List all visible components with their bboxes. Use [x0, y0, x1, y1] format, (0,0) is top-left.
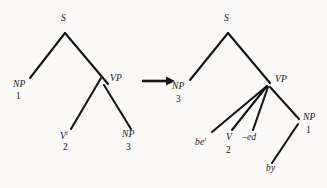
right-tree-node-s: S: [224, 14, 229, 24]
left-tree-node-np-subject: NP: [13, 80, 26, 90]
right-tree-node-preposition: by: [266, 164, 275, 174]
left-tree-node-vp: VP: [110, 74, 122, 84]
tree-diagram-canvas: [0, 0, 327, 188]
right-tree-branches: [190, 33, 299, 163]
right-tree-aux-be-superscript: t: [204, 136, 206, 142]
right-tree-node-np-subject: NP: [172, 82, 185, 92]
branch-s-to-np1: [30, 33, 65, 78]
right-tree-aux-be-letters: be: [195, 137, 204, 147]
right-tree-node-verb: V: [226, 133, 232, 143]
branch-s-to-vp: [65, 33, 108, 84]
passive-transformation-figure: S NP 1 VP Vt 2 NP 3 S NP 3 VP bet V 2 –e…: [0, 0, 327, 188]
left-tree-index-verb: 2: [63, 143, 68, 153]
branch-np1-to-by: [272, 124, 298, 163]
branch-s-to-np3: [190, 33, 228, 80]
right-tree-index-np-agent: 1: [306, 126, 311, 136]
right-tree-index-verb: 2: [226, 146, 231, 156]
right-tree-node-aux-be: bet: [195, 136, 206, 148]
branch-s-to-vp: [228, 33, 270, 83]
right-tree-node-suffix-ed: –ed: [242, 133, 256, 143]
left-tree-index-np-subject: 1: [16, 92, 21, 102]
right-tree-index-np-subject: 3: [176, 95, 181, 105]
left-tree-node-verb: Vt: [60, 130, 68, 142]
right-tree-node-np-agent: NP: [303, 113, 316, 123]
left-tree-node-s: S: [61, 14, 66, 24]
left-tree-index-np-object: 3: [126, 143, 131, 153]
branch-vp-to-np3: [104, 85, 131, 129]
left-tree-node-np-object: NP: [122, 130, 135, 140]
left-tree-verb-superscript: t: [66, 130, 68, 136]
right-tree-node-vp: VP: [275, 75, 287, 85]
branch-vp-to-np1: [270, 87, 299, 119]
branch-vp-to-be: [212, 86, 267, 132]
transformation-arrow: [142, 77, 175, 86]
branch-vp-to-vt: [71, 78, 101, 129]
